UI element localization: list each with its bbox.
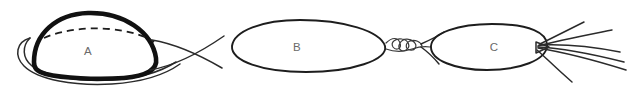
figure-canvas: A B C (0, 0, 634, 93)
specimen-a-label: A (84, 45, 92, 57)
diagram-svg: A B C (0, 0, 634, 93)
specimen-b-label: B (293, 41, 301, 53)
specimen-c-label: C (490, 41, 499, 53)
